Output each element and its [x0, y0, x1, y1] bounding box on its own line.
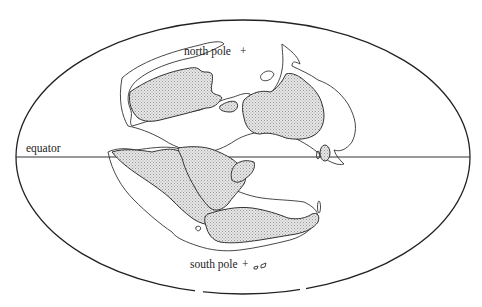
south-pole-marker: +	[242, 259, 249, 271]
island	[261, 71, 275, 81]
south-pole-label: south pole	[190, 259, 238, 271]
island	[318, 201, 321, 213]
scandinavia-landmass	[220, 101, 238, 112]
equator-label: equator	[26, 143, 60, 155]
north-pole-marker: +	[240, 46, 247, 58]
north-pole-label: north pole	[184, 46, 231, 58]
island	[261, 263, 266, 268]
antarctica-landmass	[205, 207, 319, 242]
island	[196, 226, 201, 231]
island	[320, 145, 330, 161]
island	[254, 266, 258, 269]
asia-landmass	[243, 73, 325, 139]
